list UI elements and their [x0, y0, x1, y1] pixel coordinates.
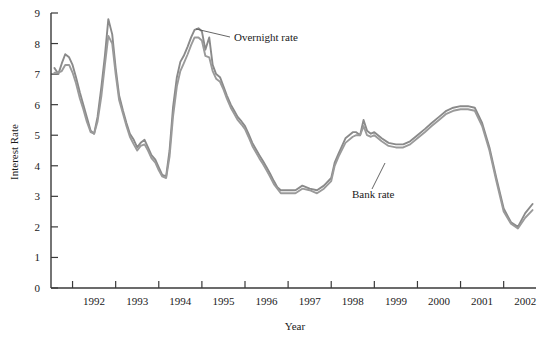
y-axis-tick-label: 7	[35, 68, 41, 80]
x-axis-tick-label: 2001	[471, 295, 493, 307]
annotation-label-overnight-rate: Overnight rate	[234, 31, 298, 43]
annotation-leader-line	[372, 163, 385, 189]
y-axis-title: Interest Rate	[8, 124, 20, 180]
x-axis-tick-label: 1996	[256, 295, 279, 307]
x-axis-tick-label: 2002	[514, 295, 536, 307]
series-group	[54, 19, 532, 228]
x-axis-tick-label: 1999	[385, 295, 408, 307]
y-axis-tick-label: 4	[35, 160, 41, 172]
x-axis-tick-label: 1993	[126, 295, 149, 307]
y-axis-tick-label: 8	[35, 38, 41, 50]
x-axis-tick-group: 1992199319941995199619971998199920002001…	[73, 281, 537, 307]
series-line-bank-rate	[54, 36, 532, 229]
y-axis-tick-label: 3	[35, 190, 41, 202]
annotations-group: Overnight rateBank rate	[196, 29, 395, 200]
y-axis-tick-label: 5	[35, 129, 41, 141]
chart-figure: 0123456789 19921993199419951996199719981…	[0, 0, 549, 340]
y-axis-tick-label: 9	[35, 7, 41, 19]
interest-rate-line-chart: 0123456789 19921993199419951996199719981…	[0, 0, 549, 340]
annotation-label-bank-rate: Bank rate	[352, 188, 395, 200]
x-axis-tick-label: 1994	[169, 295, 192, 307]
y-axis-tick-group: 0123456789	[35, 7, 59, 294]
x-axis-tick-label: 1997	[299, 295, 322, 307]
x-axis-tick-label: 2000	[428, 295, 451, 307]
y-axis-tick-label: 2	[35, 221, 41, 233]
x-axis-tick-label: 1992	[83, 295, 105, 307]
y-axis-tick-label: 6	[35, 99, 41, 111]
x-axis-tick-label: 1998	[342, 295, 365, 307]
y-axis-tick-label: 0	[35, 282, 41, 294]
y-axis-tick-label: 1	[35, 251, 41, 263]
x-axis-title: Year	[285, 320, 306, 332]
annotation-leader-line	[196, 29, 230, 37]
x-axis-tick-label: 1995	[212, 295, 235, 307]
